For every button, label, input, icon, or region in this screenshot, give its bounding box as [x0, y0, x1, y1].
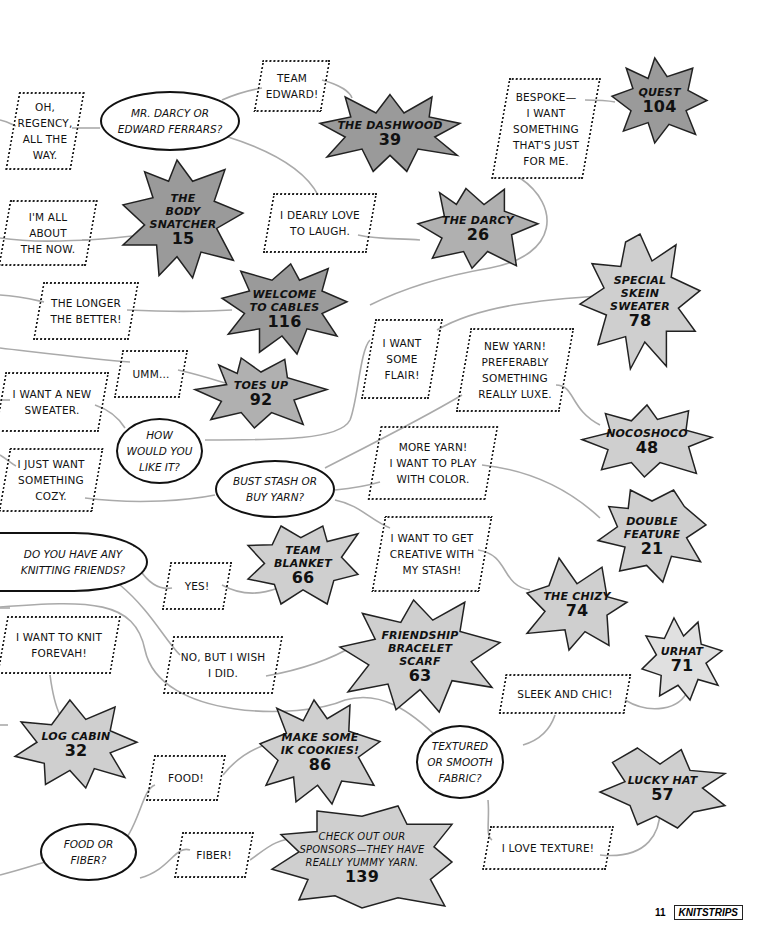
result-body-snatcher: THE BODY SNATCHER15: [123, 160, 243, 278]
result-sponsors: CHECK OUT OUR SPONSORS—THEY HAVE REALLY …: [272, 806, 452, 908]
result-lucky-hat: LUCKY HAT57: [600, 748, 725, 828]
question-bust: BUST STASH OR BUY YARN?: [215, 460, 335, 518]
result-special-skein: SPECIAL SKEIN SWEATER78: [580, 234, 700, 369]
result-urhat: URHAT71: [642, 618, 722, 700]
answer-fiber: FIBER!: [178, 832, 250, 878]
result-nocoshoco: NOCOSHOCO48: [582, 405, 712, 477]
result-quest: QUEST104: [612, 58, 707, 143]
answer-umm: UMM...: [118, 350, 184, 398]
answer-new-sweater: I WANT A NEW SWEATER.: [0, 372, 104, 432]
answer-yes: YES!: [166, 562, 228, 610]
result-chizy: THE CHIZY74: [527, 558, 627, 650]
answer-longer: THE LONGER THE BETTER!: [38, 282, 134, 340]
page-footer: 11 KNITSTRIPS: [655, 905, 743, 920]
question-how: HOW WOULD YOU LIKE IT?: [116, 418, 203, 484]
answer-forevah: I WANT TO KNIT FOREVAH!: [2, 616, 116, 674]
answer-flair: I WANT SOME FLAIR!: [368, 319, 436, 399]
question-texture: TEXTURED OR SMOOTH FABRIC?: [416, 725, 504, 799]
answer-food: FOOD!: [150, 755, 222, 801]
answer-now: I'M ALL ABOUT THE NOW.: [4, 200, 92, 266]
answer-wish: NO, BUT I WISH I DID.: [168, 636, 278, 694]
result-log-cabin: LOG CABIN32: [15, 700, 137, 788]
result-toes-up: TOES UP92: [195, 358, 327, 428]
answer-new-yarn: NEW YARN! PREFERABLY SOMETHING REALLY LU…: [463, 328, 567, 412]
answer-team-edward: TEAM EDWARD!: [258, 60, 326, 112]
question-food: FOOD OR FIBER?: [40, 823, 137, 881]
answer-laugh: I DEARLY LOVE TO LAUGH.: [268, 193, 372, 253]
result-friendship-bracelet: FRIENDSHIP BRACELET SCARF63: [340, 600, 500, 712]
result-ik-cookies: MAKE SOME IK COOKIES!86: [260, 700, 380, 804]
result-team-blanket: TEAM BLANKET66: [248, 526, 358, 604]
answer-creative: I WANT TO GET CREATIVE WITH MY STASH!: [378, 516, 486, 592]
answer-sleek: SLEEK AND CHIC!: [502, 674, 628, 714]
answer-cozy: I JUST WANT SOMETHING COZY.: [4, 448, 98, 512]
question-darcy: MR. DARCY OR EDWARD FERRARS?: [100, 91, 240, 151]
answer-more-yarn: MORE YARN! I WANT TO PLAY WITH COLOR.: [374, 426, 492, 500]
result-dashwood: THE DASHWOOD39: [320, 93, 460, 173]
answer-bespoke: BESPOKE— I WANT SOMETHING THAT'S JUST FO…: [500, 78, 592, 179]
brand-label: KNITSTRIPS: [674, 905, 743, 920]
result-darcy: THE DARCY26: [418, 186, 538, 270]
page-number: 11: [655, 907, 666, 918]
question-friends: DO YOU HAVE ANY KNITTING FRIENDS?: [0, 532, 148, 592]
result-welcome-cables: WELCOME TO CABLES116: [222, 264, 347, 354]
answer-regency: OH, REGENCY, ALL THE WAY.: [12, 92, 78, 170]
answer-texture: I LOVE TEXTURE!: [486, 826, 610, 870]
